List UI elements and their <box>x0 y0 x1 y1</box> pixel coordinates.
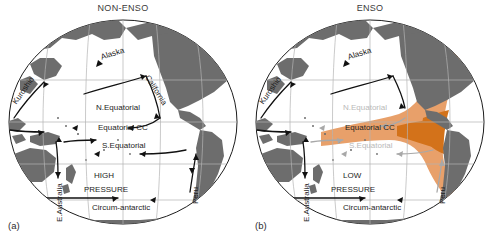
current-label-e-australia-b: E.Australia <box>303 183 311 222</box>
pressure-label-line1-b: LOW <box>343 172 361 180</box>
globe-map-a: Kuroshio Alaska California N.Equatorial … <box>0 14 246 230</box>
current-label-n-equatorial-a: N.Equatorial <box>96 104 140 112</box>
current-label-equatorial-cc-a: Equatorial CC <box>98 124 148 132</box>
pressure-label-line1-a: HIGH <box>94 172 114 180</box>
panel-a-title: NON-ENSO <box>0 3 246 13</box>
current-label-peru-b: Peru <box>439 187 447 204</box>
pressure-label-line2-a: PRESSURE <box>84 186 128 194</box>
current-label-e-australia-a: E.Australia <box>56 183 64 222</box>
current-label-s-equatorial-a: S.Equatorial <box>102 142 146 150</box>
enso-comparison-figure: NON-ENSO <box>0 0 493 237</box>
globe-map-b: Kuroshio Alaska N.Equatorial Equatorial … <box>247 14 493 230</box>
panel-b-tag: (b) <box>255 220 267 231</box>
current-label-equatorial-cc-b: Equatorial CC <box>345 124 395 132</box>
current-label-s-equatorial-b: S.Equatorial <box>349 142 393 150</box>
current-label-circum-antarctic-b: Circum-antarctic <box>343 204 401 212</box>
panel-a-tag: (a) <box>8 220 20 231</box>
current-label-circum-antarctic-a: Circum-antarctic <box>92 204 150 212</box>
panel-enso: ENSO <box>247 0 493 237</box>
pressure-label-line2-b: PRESSURE <box>331 186 375 194</box>
current-label-n-equatorial-b: N.Equatorial <box>343 104 387 112</box>
panel-non-enso: NON-ENSO <box>0 0 246 237</box>
panel-b-title: ENSO <box>247 3 493 13</box>
current-label-peru-a: Peru <box>192 187 200 204</box>
